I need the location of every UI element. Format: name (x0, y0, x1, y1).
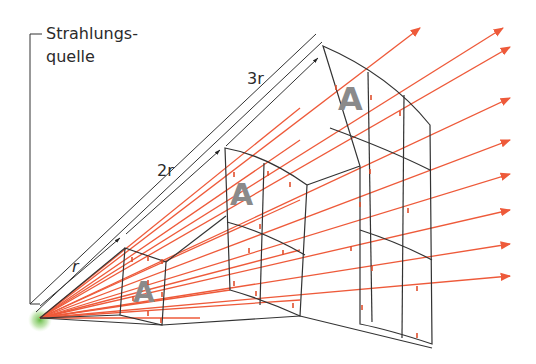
distance-label-2r: 2r (157, 161, 174, 180)
distance-label-3r: 3r (247, 69, 264, 88)
inverse-square-diagram: Strahlungs- quelle r 2r 3r (0, 0, 536, 364)
area-letter-small: A (133, 276, 155, 309)
source-label-line2: quelle (46, 47, 95, 66)
area-letter-large: A (338, 80, 363, 118)
source-label-bracket (30, 34, 42, 304)
area-frame-2r (225, 148, 432, 348)
area-letter-mid: A (230, 177, 254, 212)
radiation-rays (40, 28, 510, 318)
source-label-line1: Strahlungs- (46, 24, 138, 43)
